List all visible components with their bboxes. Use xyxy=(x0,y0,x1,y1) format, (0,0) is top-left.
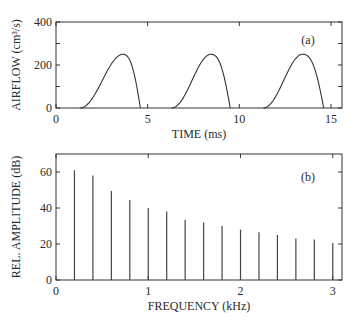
y-tick-label: 60 xyxy=(40,165,52,179)
airflow-chart: 0510150200400 (a) TIME (ms) AIRFLOW (cm³… xyxy=(9,15,342,141)
y-tick-label: 200 xyxy=(34,58,52,72)
airflow-y-axis-label: AIRFLOW (cm³/s) xyxy=(9,19,23,111)
airflow-plot-frame xyxy=(56,22,342,108)
spectrum-y-axis-label: REL. AMPLITUDE (dB) xyxy=(9,156,23,278)
spectrum-chart: 01230204060 (b) FREQUENCY (kHz) REL. AMP… xyxy=(9,154,342,313)
spectrum-x-axis-label: FREQUENCY (kHz) xyxy=(148,299,251,313)
x-tick-label: 3 xyxy=(330,284,336,298)
x-tick-label: 1 xyxy=(145,284,151,298)
spectrum-harmonic-stems xyxy=(74,170,332,280)
x-tick-label: 5 xyxy=(145,112,151,126)
y-tick-label: 20 xyxy=(40,237,52,251)
panel-label-a: (a) xyxy=(301,33,314,47)
airflow-axis-ticks: 0510150200400 xyxy=(34,15,342,126)
x-tick-label: 15 xyxy=(325,112,337,126)
spectrum-axis-ticks: 01230204060 xyxy=(40,154,342,298)
figure: 0510150200400 (a) TIME (ms) AIRFLOW (cm³… xyxy=(0,0,360,327)
y-tick-label: 40 xyxy=(40,201,52,215)
x-tick-label: 0 xyxy=(53,284,59,298)
spectrum-plot-frame xyxy=(56,154,342,280)
y-tick-label: 0 xyxy=(46,273,52,287)
panel-label-b: (b) xyxy=(301,170,315,184)
y-tick-label: 400 xyxy=(34,15,52,29)
airflow-curve xyxy=(80,54,324,108)
y-tick-label: 0 xyxy=(46,101,52,115)
x-tick-label: 10 xyxy=(233,112,245,126)
x-tick-label: 2 xyxy=(238,284,244,298)
x-tick-label: 0 xyxy=(53,112,59,126)
airflow-x-axis-label: TIME (ms) xyxy=(172,127,226,141)
